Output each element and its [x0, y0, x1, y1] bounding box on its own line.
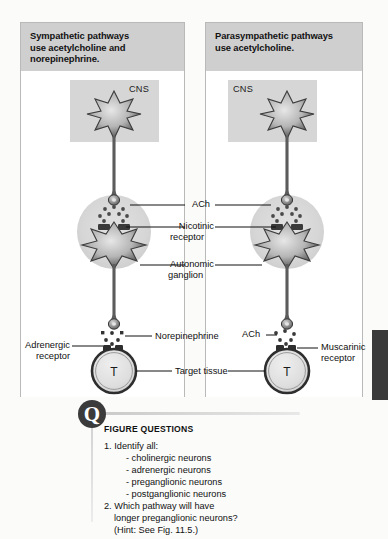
figure-question-item-7: longer preganglionic neurons?: [114, 513, 238, 525]
label-autonomic-ganglion-line-2: ganglion: [162, 270, 214, 281]
figure-canvas: Sympathetic pathways use acetylcholine a…: [0, 0, 388, 539]
label-autonomic-ganglion: Autonomic ganglion: [162, 259, 214, 282]
figure-questions-title: FIGURE QUESTIONS: [104, 424, 193, 434]
figure-question-item-3: - adrenergic neurons: [126, 465, 211, 477]
figure-question-item-1: 1. Identify all:: [104, 441, 158, 453]
postganglionic-neuron-sympathetic: [82, 222, 146, 269]
label-adrenergic-receptor-line-2: receptor: [8, 351, 70, 362]
label-adrenergic-receptor: Adrenergic receptor: [8, 340, 70, 363]
label-ach-target: ACh: [242, 329, 260, 340]
norepinephrine-dots-sympathetic: [101, 331, 123, 346]
label-nicotinic-receptor-line-2: receptor: [166, 232, 214, 243]
figure-question-item-8: (Hint: See Fig. 11.5.): [114, 525, 198, 537]
figure-question-item-2: - cholinergic neurons: [126, 453, 211, 465]
label-adrenergic-receptor-line-1: Adrenergic: [8, 340, 70, 351]
postganglionic-neuron-parasympathetic: [255, 222, 319, 269]
figure-questions-rule: [95, 412, 300, 415]
cns-neuron-sympathetic: [87, 91, 141, 139]
label-target-tissue: Target tissue: [175, 366, 228, 377]
figure-questions-vrule: [91, 424, 93, 522]
figure-question-item-5: - postganglionic neurons: [126, 489, 226, 501]
target-tissue-letter-sympathetic: T: [110, 365, 118, 379]
label-nicotinic-receptor-line-1: Nicotinic: [166, 221, 214, 232]
figure-question-item-4: - preganglionic neurons: [126, 477, 222, 489]
target-tissue-letter-parasympathetic: T: [283, 365, 291, 379]
page-edge-tab: [372, 330, 388, 400]
figure-question-item-6: 2. Which pathway will have: [104, 501, 214, 513]
label-ach-ganglion: ACh: [190, 199, 212, 210]
label-autonomic-ganglion-line-1: Autonomic: [162, 259, 214, 270]
cns-neuron-parasympathetic: [260, 91, 314, 139]
label-nicotinic-receptor: Nicotinic receptor: [166, 221, 214, 244]
label-norepinephrine: Norepinephrine: [155, 331, 219, 342]
ach-dots-target-parasympathetic: [274, 329, 296, 346]
question-badge-icon: Q: [78, 400, 106, 428]
